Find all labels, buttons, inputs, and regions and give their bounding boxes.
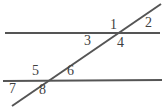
angle-label-8: 8 <box>39 83 46 97</box>
angle-label-1: 1 <box>110 18 117 32</box>
angle-label-7: 7 <box>9 82 16 96</box>
angle-label-5: 5 <box>32 64 39 78</box>
angle-label-3: 3 <box>84 34 91 48</box>
transversal-line <box>12 4 161 106</box>
lower-parallel-line <box>3 80 162 81</box>
angle-label-2: 2 <box>145 16 152 30</box>
geometry-figure <box>0 0 165 110</box>
angle-label-4: 4 <box>117 36 124 50</box>
geometry-diagram: 1 2 3 4 5 6 7 8 <box>0 0 165 110</box>
angle-label-6: 6 <box>67 64 74 78</box>
